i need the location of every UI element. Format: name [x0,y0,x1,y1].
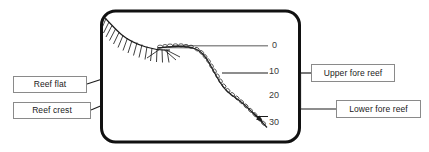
depth-label-0: 0 [272,41,277,50]
depth-label-20: 20 [269,91,279,100]
depth-label-10: 10 [269,67,279,76]
callout-lower-fore-reef: Lower fore reef [336,100,421,118]
callout-reef-crest: Reef crest [13,102,91,119]
depth-label-30: 30 [269,118,279,127]
reef-zonation-diagram: 0 10 20 30 Reef flat Reef crest Upper fo… [0,0,429,152]
callout-reef-flat: Reef flat [13,76,87,93]
callout-upper-fore-reef: Upper fore reef [311,64,395,82]
